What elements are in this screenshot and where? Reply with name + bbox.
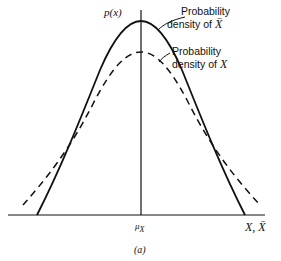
x-symbol: X [219, 57, 228, 71]
annotation-x-line2: density of X [172, 57, 228, 71]
annotation-xbar-line1: Probability [181, 5, 231, 17]
caption: (a) [134, 244, 146, 256]
mu-x-label: μX [134, 221, 146, 234]
distribution-diagram: p(x) Probability density of X̄ Probabili… [0, 0, 281, 261]
xbar-symbol: X̄ [214, 17, 223, 31]
annotation-x-text: density of [172, 58, 220, 70]
annotation-pointer-x [159, 53, 170, 62]
x-axis-label: X, X̄ [244, 220, 266, 234]
annotation-xbar-text: density of [167, 18, 215, 30]
annotation-xbar-line2: density of X̄ [167, 17, 223, 31]
y-axis-label: p(x) [103, 6, 122, 19]
annotation-x-line1: Probability [172, 45, 222, 57]
mu-subscript: X [139, 225, 146, 234]
